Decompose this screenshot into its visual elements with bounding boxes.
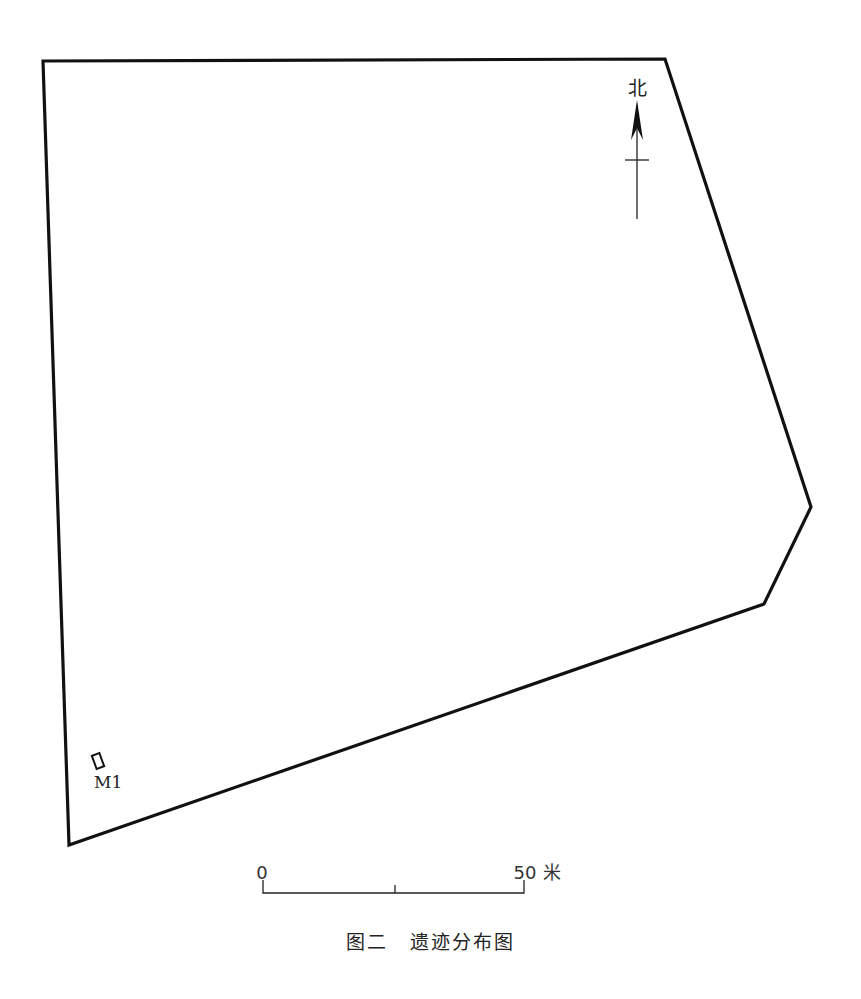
scale-bar-line [263, 880, 524, 893]
scale-unit-label: 米 [543, 862, 561, 883]
north-arrow: 北 [625, 77, 649, 219]
scale-bar: 0 50 米 [256, 862, 561, 893]
site-boundary [43, 59, 811, 845]
north-label: 北 [628, 77, 647, 99]
figure-caption: 图二遗迹分布图 [0, 927, 861, 954]
feature-m1-label: M1 [94, 772, 122, 792]
site-distribution-map: 北 M1 0 50 米 [0, 0, 861, 999]
scale-end-label: 50 [514, 862, 537, 883]
feature-m1[interactable]: M1 [92, 753, 122, 792]
figure-number: 图二 [346, 931, 388, 953]
scale-start-label: 0 [256, 862, 267, 883]
tomb-m1-outline [92, 753, 104, 769]
figure-title: 遗迹分布图 [410, 931, 515, 953]
